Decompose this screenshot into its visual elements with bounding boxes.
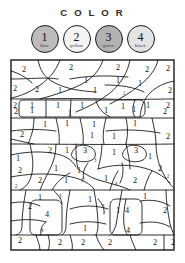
region-number: 2 <box>133 176 137 185</box>
region-number: 4 <box>41 227 44 233</box>
region-number: 2 <box>48 146 52 155</box>
region-number: 2 <box>20 130 24 139</box>
region-number: 1 <box>64 176 68 185</box>
region-number: 1 <box>83 224 87 233</box>
region-number: 1 <box>104 106 108 115</box>
region-number: 4 <box>45 210 49 219</box>
color-legend: 1 blue 2 yellow 3 green 4 black <box>0 25 185 53</box>
region-number: 3 <box>94 157 97 163</box>
region-number: 1 <box>65 119 69 128</box>
region-number: 2 <box>163 107 167 116</box>
legend-number: 4 <box>138 32 144 43</box>
legend-color-name: green <box>103 43 115 48</box>
coloring-puzzle[interactable]: 2 2 2 2 2 1 1 1 2 2 1 1 1 2 2 1 1 1 1 1 <box>10 59 175 251</box>
region-number: 2 <box>145 65 149 74</box>
puzzle-canvas[interactable]: 2 2 2 2 2 1 1 1 2 2 1 1 1 2 2 1 1 1 1 1 <box>10 59 175 251</box>
legend-number: 2 <box>74 32 80 43</box>
legend-color-name: black <box>135 43 146 48</box>
region-number: 4 <box>126 226 130 235</box>
region-number: 2 <box>163 206 167 215</box>
legend-color-name: yellow <box>70 43 83 48</box>
region-number: 2 <box>22 65 26 74</box>
region-number: 2 <box>158 164 162 173</box>
region-number: 1 <box>38 193 42 202</box>
region-number: 3 <box>59 193 62 199</box>
region-number: 1 <box>104 174 108 183</box>
region-number: 1 <box>121 102 125 111</box>
region-number: 1 <box>65 146 69 155</box>
legend-item-3[interactable]: 3 green <box>95 25 123 53</box>
region-number: 1 <box>84 76 88 85</box>
region-number: 2 <box>28 202 32 211</box>
region-number: 1 <box>123 90 126 96</box>
region-number: 1 <box>143 192 147 201</box>
region-number: 3 <box>81 177 84 183</box>
region-number: 3 <box>83 146 87 155</box>
region-number: 2 <box>14 107 18 116</box>
region-number: 1 <box>93 86 97 95</box>
region-number: 1 <box>133 119 137 128</box>
legend-item-1[interactable]: 1 blue <box>31 25 59 53</box>
region-number: 2 <box>153 238 157 247</box>
legend-item-4[interactable]: 4 black <box>127 25 155 53</box>
region-number: 1 <box>16 154 20 163</box>
region-number: 1 <box>112 148 116 157</box>
region-number: 4 <box>125 206 129 215</box>
legend-number: 3 <box>106 32 112 43</box>
legend-item-2[interactable]: 2 yellow <box>63 25 91 53</box>
region-number: 1 <box>116 206 120 215</box>
region-number: 1 <box>58 86 62 95</box>
region-number: 1 <box>77 166 81 175</box>
region-number: 2 <box>58 238 62 247</box>
region-number: 1 <box>88 195 92 204</box>
region-number: 1 <box>92 120 96 129</box>
region-number: 3 <box>115 181 118 187</box>
region-number: 1 <box>116 76 120 85</box>
region-number: 1 <box>30 106 34 115</box>
region-number: 2 <box>18 166 22 175</box>
region-number: 2 <box>108 238 112 247</box>
page-title: C O L O R <box>0 7 185 18</box>
region-number: 1 <box>146 101 150 110</box>
region-number: 1 <box>56 101 60 110</box>
region-number: 2 <box>15 183 18 189</box>
region-number: 1 <box>132 105 136 114</box>
worksheet-page: C O L O R 1 blue 2 yellow 3 green 4 blac… <box>0 0 185 263</box>
region-number: 2 <box>81 238 85 247</box>
region-number: 1 <box>148 152 152 161</box>
region-number: 1 <box>68 109 72 118</box>
region-number: 1 <box>54 164 58 173</box>
region-number: 1 <box>80 101 84 110</box>
region-number: 2 <box>69 63 73 72</box>
legend-color-name: blue <box>40 43 49 48</box>
region-number: 3 <box>134 146 138 155</box>
region-number: 1 <box>90 131 94 140</box>
region-number: 1 <box>112 132 116 141</box>
region-number: 2 <box>13 84 17 93</box>
region-number: 2 <box>38 176 42 185</box>
puzzle-numbers: 2 2 2 2 2 1 1 1 2 2 1 1 1 2 2 1 1 1 1 1 <box>13 63 175 247</box>
region-number: 2 <box>116 63 120 72</box>
region-number: 2 <box>18 236 22 245</box>
region-number: 2 <box>171 238 175 247</box>
region-number: 1 <box>138 79 142 88</box>
region-number: 2 <box>166 132 170 141</box>
legend-number: 1 <box>42 32 48 43</box>
region-number: 2 <box>35 85 39 94</box>
region-number: 2 <box>166 64 170 73</box>
region-number: 1 <box>43 120 47 129</box>
region-number: 3 <box>102 203 105 209</box>
region-number: 2 <box>168 86 172 95</box>
region-number: 2 <box>167 173 170 179</box>
